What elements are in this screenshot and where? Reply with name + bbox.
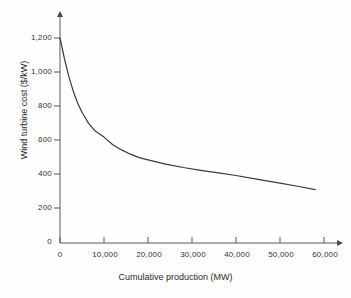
y-axis-ticks <box>54 38 60 208</box>
cost-curve-line <box>60 38 315 190</box>
x-axis-ticks <box>60 237 324 243</box>
y-axis <box>54 16 60 243</box>
chart-canvas <box>0 0 351 298</box>
wind-turbine-cost-chart: Wind turbine cost ($/kW) Cumulative prod… <box>0 0 351 298</box>
x-axis <box>60 237 338 243</box>
